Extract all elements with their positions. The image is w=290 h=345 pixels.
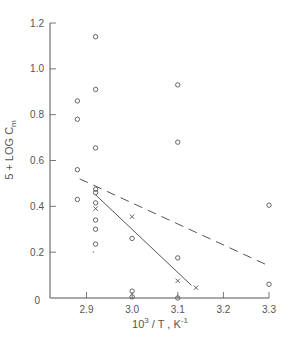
y-tick-label: 1.0 [30, 63, 44, 74]
data-markers [75, 35, 271, 301]
cross-marker [130, 214, 134, 218]
circle-marker [75, 117, 79, 121]
circle-marker [93, 87, 97, 91]
y-tick-label: 0.8 [30, 109, 44, 120]
circle-marker [93, 227, 97, 231]
y-tick-label: 0 [34, 295, 40, 306]
y-ticks: 00.20.40.60.81.01.2 [30, 18, 56, 307]
cross-marker [176, 279, 180, 283]
x-axis-title: 103 / T , K-1 [132, 316, 188, 330]
fit-lines [80, 179, 269, 286]
circle-marker [75, 167, 79, 171]
circle-marker [93, 35, 97, 39]
dot-marker [93, 251, 95, 253]
y-tick-label: 1.2 [30, 18, 44, 29]
circle-marker [130, 236, 134, 240]
circle-marker [93, 146, 97, 150]
dashed-fit-line [80, 179, 269, 266]
circle-marker [93, 201, 97, 205]
x-axis-title-sup2: -1 [181, 316, 189, 325]
y-axis-title-main: 5 + LOG C [3, 127, 15, 180]
y-tick-label: 0.2 [30, 247, 44, 258]
y-tick-label: 0.6 [30, 155, 44, 166]
cross-marker [194, 285, 198, 289]
x-axis-title-base: 10 [132, 318, 144, 330]
solid-fit-line [96, 195, 192, 286]
x-tick-label: 3.3 [262, 304, 276, 315]
circle-marker [176, 83, 180, 87]
y-axis-title: 5 + LOG Cm [3, 120, 18, 180]
circle-marker [93, 218, 97, 222]
circle-marker [93, 242, 97, 246]
circle-marker [176, 140, 180, 144]
x-tick-label: 2.9 [80, 304, 94, 315]
cross-marker [93, 206, 97, 210]
x-tick-label: 3.1 [171, 304, 185, 315]
y-tick-label: 0.4 [30, 201, 44, 212]
y-axis-title-sub: m [9, 120, 18, 127]
circle-marker [75, 99, 79, 103]
circle-marker [75, 197, 79, 201]
circle-marker [176, 256, 180, 260]
circle-marker [267, 203, 271, 207]
x-tick-label: 3.2 [216, 304, 230, 315]
axes: 00.20.40.60.81.01.2 2.93.03.13.23.3 [30, 18, 276, 316]
x-axis-title-mid: / T , K [149, 318, 182, 330]
circle-marker [267, 282, 271, 286]
x-tick-label: 3.0 [125, 304, 139, 315]
chart: 00.20.40.60.81.01.2 2.93.03.13.23.3 103 … [0, 0, 290, 345]
